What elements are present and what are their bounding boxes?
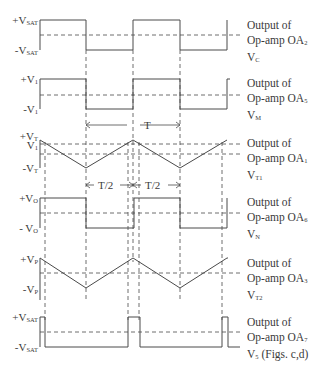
v5-caption: Output of Op-amp OA7 V5 (Figs. c,d) <box>247 315 308 364</box>
waveform-vt2 <box>40 258 240 300</box>
vt2-high-label: +VP <box>0 253 38 268</box>
vc-caption: Output of Op-amp OA2 VC <box>247 18 307 67</box>
period-label: T <box>144 119 151 131</box>
vm-high-label: +V1 <box>0 73 38 88</box>
vt1-mid-label: V1 <box>0 139 38 154</box>
half-period-right-label: T/2 <box>145 179 160 191</box>
vn-low-label: - VO <box>0 222 38 237</box>
waveform-vm <box>40 79 240 109</box>
vt1-caption: Output of Op-amp OA1 VT1 <box>247 136 307 185</box>
waveform-v5 <box>40 317 240 347</box>
vc-low-label: -VSAT <box>0 44 38 59</box>
vt2-low-label: -VP <box>0 283 38 298</box>
vm-caption: Output of Op-amp OA5 VM <box>247 76 307 125</box>
waveform-vn <box>40 198 240 228</box>
waveform-vc <box>40 20 240 50</box>
vc-high-label: +VSAT <box>0 14 38 29</box>
waveform-vt1 <box>40 140 240 168</box>
vn-caption: Output of Op-amp OA6 VN <box>247 195 307 244</box>
vt2-caption: Output of Op-amp OA3 VT2 <box>247 256 307 305</box>
half-period-left-label: T/2 <box>98 179 113 191</box>
v5-high-label: +VSAT <box>0 311 38 326</box>
vt1-low-label: -VT <box>0 162 38 177</box>
v5-low-label: -VSAT <box>0 341 38 356</box>
vm-low-label: -V1 <box>0 103 38 118</box>
vn-high-label: +VO <box>0 192 38 207</box>
